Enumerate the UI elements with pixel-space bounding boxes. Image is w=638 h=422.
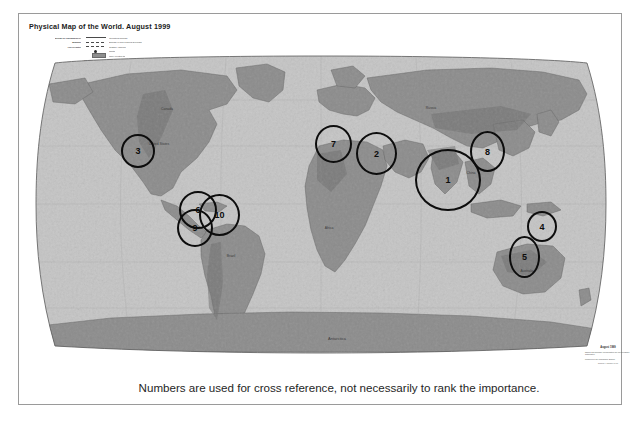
legend-key: Line of control — [55, 46, 81, 48]
map-label-canada: Canada — [161, 107, 173, 111]
legend-label: Boundary or area of special sovereignty — [109, 41, 142, 43]
source-note-heading: August 1999 — [585, 346, 631, 349]
document-frame: Physical Map of the World. August 1999 B… — [18, 13, 622, 405]
document-page: Physical Map of the World. August 1999 B… — [0, 0, 638, 422]
legend-swatch-dash-dot-line — [84, 46, 106, 47]
map-marker-3[interactable]: 3 — [121, 134, 155, 168]
map-marker-5[interactable]: 5 — [509, 236, 540, 278]
map-label-brazil: Brazil — [227, 254, 236, 258]
map-marker-8[interactable]: 8 — [470, 131, 505, 172]
legend-swatch-dashed-line — [84, 42, 106, 43]
source-note-body-2: Produced by the Cartography Branch. — [585, 358, 631, 361]
legend-swatch-capital-dot — [84, 50, 106, 53]
legend-row: BOUNDARY REPRESENTATION IS NOT NECESSARI… — [55, 36, 155, 39]
legend-key: BOUNDARY REPRESENTATION IS NOT NECESSARI… — [55, 37, 81, 39]
map-marker-7[interactable]: 7 — [315, 125, 352, 163]
map-marker-2[interactable]: 2 — [356, 132, 397, 175]
map-label-africa: Africa — [325, 226, 334, 230]
legend-label: International boundary — [109, 37, 128, 39]
legend-row: Boundary Boundary or area of special sov… — [55, 40, 155, 43]
legend-label: Coastline / shoreline — [109, 46, 126, 48]
world-map-svg: Canada United States Brazil Russia China… — [31, 54, 611, 354]
world-map-plate[interactable]: Canada United States Brazil Russia China… — [31, 54, 611, 354]
map-source-note: August 1999 Names and boundary represent… — [585, 346, 631, 364]
source-note-footer: 803345AI (R00594) 8-99 — [585, 362, 631, 364]
source-note-body: Names and boundary representation are no… — [585, 351, 631, 356]
map-label-antarctica: Antarctica — [328, 336, 347, 341]
figure-caption: Numbers are used for cross reference, no… — [37, 381, 638, 394]
legend-label: Capital — [109, 50, 115, 52]
map-marker-10[interactable]: 10 — [199, 194, 240, 236]
legend-row: Line of control Coastline / shoreline — [55, 45, 155, 48]
page-title: Physical Map of the World. August 1999 — [29, 22, 171, 31]
map-globe: Canada United States Brazil Russia China… — [31, 54, 611, 354]
legend-row: Capital — [55, 49, 155, 52]
map-label-russia: Russia — [426, 106, 436, 110]
legend-swatch-solid-line — [84, 37, 106, 38]
legend-key: Boundary — [55, 41, 81, 43]
